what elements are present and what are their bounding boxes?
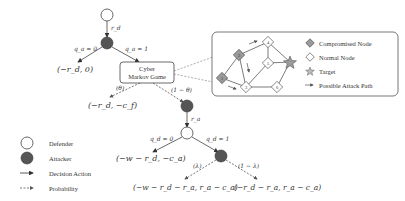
attacker-node-bottom [215,150,227,162]
cyber-markov-game-box: Cyber Markov Game [120,62,174,83]
legend-probability: Probability [49,185,79,192]
prob-edge-theta [110,83,140,97]
attacker-icon [21,152,33,164]
legend-defender: Defender [49,140,74,147]
payoff-no-defense: (−w − r_d, −c_a) [116,154,186,163]
edge-label-rd: r_d [111,24,121,32]
root-defender-node [101,9,113,21]
attacker-node-top [101,37,113,49]
main-legend: Defender Attacker Decision Action Probab… [20,137,92,192]
payoff-lambda: (−w − r_d − r_a, r_a − c_a) [133,183,238,192]
defender-node-middle [181,127,193,139]
prob-label-one-minus-theta: (1 − θ) [171,86,193,93]
edge-label-qa1: q_a = 1 [125,45,148,53]
svg-text:2: 2 [238,53,240,58]
game-tree-diagram: r_d q_a = 0 q_a = 1 (−r_d, 0) Cyber Mark… [0,0,405,201]
payoff-theta: (−r_d, −c_f) [88,101,137,110]
svg-text:1: 1 [221,76,223,81]
edge-label-ra: r_a [191,115,201,123]
legend-normal-node: Normal Node [319,54,355,61]
network-inset: 1 2 3 4 5 6 Compromised Node [212,32,398,96]
edge-label-qd0: q_d = 0 [150,135,174,143]
attacker-node-middle [181,100,193,112]
prob-label-lambda: (λ) [193,162,202,169]
edge-label-qd1: q_d = 1 [206,135,229,143]
game-box-line1: Cyber [139,65,156,72]
legend-compromised-node: Compromised Node [319,40,372,47]
prob-label-theta: (θ) [116,84,125,91]
legend-decision-action: Decision Action [49,170,92,177]
prob-label-one-minus-lambda: (1 − λ) [238,162,260,169]
defender-icon [21,137,33,149]
legend-target: Target [319,68,336,75]
payoff-one-minus-lambda: (−r_d − r_a, r_a − c_a) [234,183,321,192]
legend-attack-path: Possible Attack Path [319,82,373,89]
inset-connector-bottom [174,74,213,82]
inset-connector-top [174,57,213,71]
game-box-line2: Markov Game [128,73,166,80]
legend-attacker: Attacker [49,155,72,162]
payoff-no-attack: (−r_d, 0) [57,65,93,74]
edge-label-qa0: q_a = 0 [74,45,97,53]
